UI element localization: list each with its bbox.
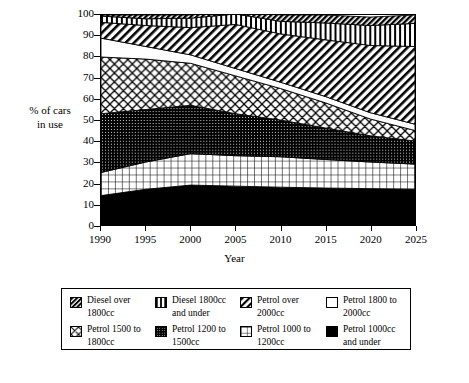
vertical-stripes-icon	[155, 297, 167, 308]
solid-white-icon	[326, 297, 338, 308]
y-tick-mark	[94, 35, 100, 36]
stacked-area-chart: % of cars in use 0102030405060708090100	[0, 0, 469, 383]
x-tick-mark	[100, 226, 101, 231]
legend-item-label: Petrol 1000cc and under	[343, 323, 396, 348]
y-tick-mark	[94, 184, 100, 185]
legend-item[interactable]: Petrol over 2000cc	[240, 295, 324, 321]
legend-item-label: Petrol 1800 to 2000cc	[343, 294, 397, 319]
x-tick-label: 2025	[393, 233, 439, 245]
x-tick-mark	[371, 226, 372, 231]
x-tick-label: 2015	[303, 233, 349, 245]
y-tick-label: 70	[83, 72, 94, 83]
legend-item[interactable]: Petrol 1500 to 1800cc	[70, 324, 154, 350]
x-tick-label: 1995	[122, 233, 168, 245]
y-tick-label: 50	[83, 114, 94, 125]
legend-item-label: Diesel 1800cc and under	[172, 294, 226, 319]
diagonal-hatch-dense-icon	[70, 297, 82, 308]
x-tick-label: 2020	[348, 233, 394, 245]
y-tick-mark	[94, 205, 100, 206]
diagonal-hatch-icon	[240, 297, 252, 308]
area-series-canvas	[101, 15, 415, 225]
x-tick-label: 2010	[258, 233, 304, 245]
y-tick-mark	[94, 226, 100, 227]
x-tick-mark	[145, 226, 146, 231]
legend-item-label: Petrol 1200 to 1500cc	[172, 323, 226, 348]
legend-item-label: Petrol 1500 to 1800cc	[87, 323, 141, 348]
y-tick-label: 10	[83, 199, 94, 210]
y-tick-mark	[94, 120, 100, 121]
legend-item[interactable]: Diesel over 1800cc	[70, 295, 154, 321]
dense-dots-icon	[155, 326, 167, 337]
y-tick-label: 100	[78, 8, 95, 19]
cross-hatch-icon	[70, 326, 82, 337]
x-tick-mark	[235, 226, 236, 231]
legend-item-label: Petrol 1000 to 1200cc	[257, 323, 311, 348]
y-tick-label: 60	[83, 93, 94, 104]
x-tick-mark	[281, 226, 282, 231]
y-tick-mark	[94, 99, 100, 100]
y-tick-mark	[94, 162, 100, 163]
y-tick-label: 30	[83, 156, 94, 167]
legend-item[interactable]: Petrol 1200 to 1500cc	[155, 324, 239, 350]
y-tick-label: 80	[83, 50, 94, 61]
legend-item[interactable]: Petrol 1800 to 2000cc	[326, 295, 410, 321]
x-tick-mark	[416, 226, 417, 231]
grid-icon	[240, 326, 252, 337]
y-tick-mark	[94, 56, 100, 57]
x-tick-mark	[190, 226, 191, 231]
y-tick-label: 40	[83, 135, 94, 146]
area-series-solid-black	[101, 185, 415, 225]
legend-item[interactable]: Petrol 1000cc and under	[326, 324, 410, 350]
x-tick-label: 2000	[167, 233, 213, 245]
solid-black-icon	[326, 326, 338, 337]
legend: Diesel over 1800cc	[61, 288, 411, 350]
x-tick-mark	[326, 226, 327, 231]
x-axis-title: Year	[0, 252, 469, 264]
plot-area	[100, 14, 416, 226]
legend-item-label: Diesel over 1800cc	[87, 294, 131, 319]
legend-item[interactable]: Diesel 1800cc and under	[155, 295, 239, 321]
y-tick-mark	[94, 141, 100, 142]
x-tick-label: 2005	[212, 233, 258, 245]
x-tick-label: 1990	[77, 233, 123, 245]
legend-item[interactable]: Petrol 1000 to 1200cc	[240, 324, 324, 350]
y-tick-label: 90	[83, 29, 94, 40]
y-tick-label: 20	[83, 178, 94, 189]
legend-item-label: Petrol over 2000cc	[257, 294, 299, 319]
y-tick-mark	[94, 14, 100, 15]
y-tick-mark	[94, 78, 100, 79]
